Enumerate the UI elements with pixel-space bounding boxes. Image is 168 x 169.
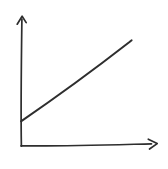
chart-canvas — [0, 0, 168, 169]
y-axis-line — [21, 19, 22, 146]
sketch-line-chart — [0, 0, 168, 169]
y-axis — [17, 16, 26, 146]
x-axis-line — [21, 144, 152, 146]
x-axis — [21, 139, 157, 149]
data-line — [21, 40, 132, 121]
